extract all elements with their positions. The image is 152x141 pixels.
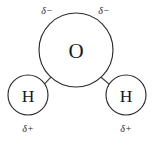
hydrogen-right-atom-label: H — [120, 86, 133, 106]
oxygen-atom-label: O — [68, 39, 83, 63]
water-molecule-diagram: O H H δ− δ− δ+ δ+ — [0, 0, 152, 141]
partial-positive-charge-left-label: δ+ — [22, 123, 33, 134]
partial-negative-charge-left-label: δ− — [41, 5, 52, 16]
molecule-canvas: O H H δ− δ− δ+ δ+ — [0, 0, 152, 141]
partial-negative-charge-right-label: δ− — [98, 5, 109, 16]
hydrogen-left-atom-label: H — [22, 86, 35, 106]
partial-positive-charge-right-label: δ+ — [120, 123, 131, 134]
